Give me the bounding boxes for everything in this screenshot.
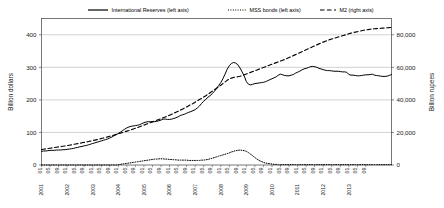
right-axis-tick-label: 80,000	[397, 31, 416, 38]
x-axis-month-label: 01	[216, 168, 222, 174]
x-axis-month-label: 09	[182, 168, 188, 174]
x-axis-month-label: 01	[37, 168, 43, 174]
x-axis-month-label: 09	[207, 168, 213, 174]
x-axis-month-label: 05	[250, 168, 256, 174]
chart-container: International Reserves (left axis)MSS bo…	[0, 0, 444, 208]
x-axis-year-label: 2010	[269, 184, 275, 196]
right-axis-tick-label: 60,000	[397, 64, 416, 71]
x-axis-month-label: 09	[105, 168, 111, 174]
x-axis-month-label: 05	[71, 168, 77, 174]
x-axis-month-label: 09	[335, 168, 341, 174]
x-axis-month-label: 05	[45, 168, 51, 174]
x-axis-month-label: 01	[139, 168, 145, 174]
x-axis-month-label: 05	[122, 168, 128, 174]
x-axis-month-label: 09	[361, 168, 367, 174]
x-axis-month-label: 09	[54, 168, 60, 174]
x-axis-month-label: 09	[79, 168, 85, 174]
right-axis-ticks: 020,00040,00060,00080,000	[392, 31, 416, 168]
x-axis-month-label: 01	[241, 168, 247, 174]
x-axis-month-label: 05	[276, 168, 282, 174]
left-axis-tick-label: 0	[33, 161, 37, 168]
x-axis-month-label: 09	[284, 168, 290, 174]
x-axis-year-label: 2003	[90, 184, 96, 196]
series-line-0	[42, 62, 392, 151]
left-axis-title: Billion dollars	[7, 73, 14, 111]
series-line-1	[42, 150, 392, 165]
x-axis-month-label: 01	[165, 168, 171, 174]
x-axis-month-label: 05	[301, 168, 307, 174]
right-axis-tick-label: 20,000	[397, 129, 416, 136]
x-axis-year-label: 2012	[320, 184, 326, 196]
reserves-mss-m2-line-chart: International Reserves (left axis)MSS bo…	[0, 0, 444, 208]
x-axis-month-label: 09	[130, 168, 136, 174]
x-axis-month-label: 05	[173, 168, 179, 174]
chart-legend: International Reserves (left axis)MSS bo…	[88, 7, 374, 13]
x-axis-month-label: 09	[156, 168, 162, 174]
x-axis-year-label: 2013	[346, 184, 352, 196]
series-line-2	[42, 27, 392, 149]
x-axis-year-label: 2009	[243, 184, 249, 196]
x-axis-month-label: 05	[199, 168, 205, 174]
x-axis-month-label: 05	[352, 168, 358, 174]
right-axis-tick-label: 0	[397, 161, 401, 168]
left-axis-tick-label: 300	[26, 64, 37, 71]
x-axis-month-label: 01	[88, 168, 94, 174]
x-axis-month-label: 09	[310, 168, 316, 174]
x-axis-month-label: 05	[327, 168, 333, 174]
left-axis-tick-label: 200	[26, 96, 37, 103]
legend-label-2: M2 (right axis)	[340, 7, 374, 13]
x-axis-year-label: 2004	[115, 184, 121, 196]
x-axis-month-label: 01	[344, 168, 350, 174]
x-axis-year-label: 2006	[166, 184, 172, 196]
x-axis-month-label: 05	[224, 168, 230, 174]
legend-label-1: MSS bonds (left axis)	[250, 7, 301, 13]
chart-series-lines	[42, 27, 392, 165]
legend-label-0: International Reserves (left axis)	[112, 7, 190, 13]
x-axis-month-label: 01	[113, 168, 119, 174]
right-axis-title: Billion rupees	[428, 73, 436, 111]
x-axis-month-label: 01	[190, 168, 196, 174]
x-axis-month-label: 01	[267, 168, 273, 174]
x-axis-year-label: 2011	[294, 184, 300, 195]
x-axis-year-label: 2008	[218, 184, 224, 196]
left-axis-ticks: 0100200300400	[26, 31, 41, 168]
left-axis-tick-label: 400	[26, 31, 37, 38]
x-axis-month-label: 05	[147, 168, 153, 174]
x-axis-year-label: 2007	[192, 184, 198, 196]
left-axis-tick-label: 100	[26, 129, 37, 136]
x-axis-month-label: 05	[96, 168, 102, 174]
chart-gridlines	[42, 35, 392, 133]
x-axis-month-label: 09	[258, 168, 264, 174]
right-axis-tick-label: 40,000	[397, 96, 416, 103]
x-axis-month-label: 09	[233, 168, 239, 174]
x-axis-month-label: 01	[293, 168, 299, 174]
x-axis-year-label: 2002	[64, 184, 70, 196]
x-axis-year-label: 2005	[141, 184, 147, 196]
x-axis-year-label: 2001	[38, 184, 44, 196]
x-axis-month-label: 01	[318, 168, 324, 174]
x-axis-month-label: 01	[62, 168, 68, 174]
x-axis-ticks: 0120010509012002050901200305090120040509…	[37, 165, 367, 196]
